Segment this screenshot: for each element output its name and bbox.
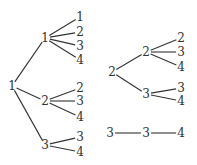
branch-node: 3 [41,138,49,152]
leaf-edge [50,138,75,144]
leaf-edge [50,90,76,100]
leaf-node: 4 [177,94,185,108]
leaf-edge [49,41,76,58]
leaf-edge [151,40,177,50]
branch-edge [116,55,141,70]
leaf-node: 2 [76,25,84,39]
root-node: 2 [108,65,116,79]
branch-node: 1 [41,31,49,45]
branch-edge [116,75,142,92]
branch-edge [15,42,42,82]
leaf-node: 3 [76,94,84,108]
leaf-node: 4 [76,145,84,159]
leaf-node: 1 [76,10,84,24]
branch-node: 2 [142,45,150,59]
branch-edge [17,88,41,99]
branch-node: 2 [41,94,49,108]
leaf-node: 3 [177,45,185,59]
leaf-edge [151,54,177,65]
leaf-node: 2 [76,81,84,95]
leaf-edge [151,95,176,100]
leaf-node: 4 [177,60,185,74]
branch-node: 3 [142,126,150,140]
leaf-node: 3 [76,130,84,144]
leaf-node: 3 [76,39,84,53]
leaf-node: 3 [177,81,185,95]
leaf-edge [50,146,75,151]
tree-diagram: 123412342343123423432433 [0,0,197,165]
leaf-node: 4 [76,110,84,124]
leaf-node: 4 [177,126,185,140]
leaf-edge [50,33,75,37]
leaf-edge [151,89,176,93]
root-node: 1 [8,79,16,93]
leaf-node: 2 [177,31,185,45]
branch-node: 3 [142,87,150,101]
leaf-node: 4 [76,53,84,67]
leaf-edge [50,103,76,115]
root-node: 3 [106,126,114,140]
